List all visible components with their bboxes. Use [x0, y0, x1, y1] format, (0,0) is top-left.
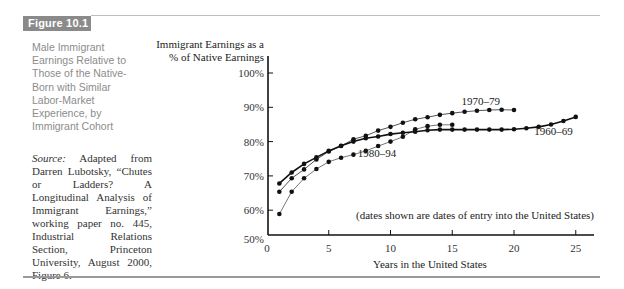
y-tick-label: 60% — [244, 204, 264, 216]
data-point — [401, 130, 406, 135]
data-point — [314, 167, 319, 172]
x-tick-label: 25 — [570, 242, 582, 254]
y-tick-label: 70% — [244, 170, 264, 182]
data-point — [413, 117, 418, 122]
data-point — [438, 127, 443, 132]
data-point — [302, 162, 307, 167]
data-point — [376, 134, 381, 139]
data-point — [302, 176, 307, 181]
data-point — [512, 127, 517, 132]
data-point — [450, 127, 455, 132]
y-axis-title: % of Native Earnings — [169, 51, 264, 63]
data-point — [438, 122, 443, 127]
data-point — [413, 129, 418, 134]
data-point — [326, 149, 331, 154]
data-point — [401, 134, 406, 139]
y-tick-label: 80% — [244, 136, 264, 148]
data-point — [499, 107, 504, 112]
y-tick-label: 50% — [244, 233, 264, 245]
line-chart: 50%60%70%80%90%100%0510152025Immigrant E… — [0, 0, 624, 289]
data-point — [425, 124, 430, 129]
series-label: 1960–69 — [534, 125, 573, 137]
series-label: 1980–94 — [358, 147, 397, 159]
data-point — [351, 152, 356, 157]
series-line — [279, 110, 514, 192]
data-point — [499, 127, 504, 132]
y-tick-label: 90% — [244, 101, 264, 113]
data-point — [302, 167, 307, 172]
y-axis-title: Immigrant Earnings as a — [156, 38, 264, 50]
data-point — [438, 113, 443, 118]
data-point — [351, 139, 356, 144]
data-point — [364, 136, 369, 141]
data-point — [573, 115, 578, 120]
y-tick-label: 100% — [238, 67, 264, 79]
data-point — [339, 155, 344, 160]
data-point — [462, 127, 467, 132]
data-point — [289, 176, 294, 181]
data-point — [425, 115, 430, 120]
x-tick-label: 0 — [264, 242, 270, 254]
data-point — [401, 120, 406, 125]
series-label: 1970–79 — [461, 95, 500, 107]
data-point — [475, 108, 480, 113]
x-axis-title: Years in the United States — [373, 258, 487, 270]
x-tick-label: 15 — [447, 242, 459, 254]
data-point — [450, 122, 455, 127]
data-point — [277, 181, 282, 186]
data-point — [487, 108, 492, 113]
data-point — [289, 170, 294, 175]
data-point — [388, 139, 393, 144]
chart-annotation: (dates shown are dates of entry into the… — [356, 209, 594, 222]
data-point — [326, 160, 331, 165]
x-tick-label: 20 — [509, 242, 521, 254]
data-point — [512, 108, 517, 113]
data-point — [277, 189, 282, 194]
data-point — [462, 109, 467, 114]
data-point — [561, 119, 566, 124]
data-point — [277, 212, 282, 217]
data-point — [314, 155, 319, 160]
data-point — [339, 143, 344, 148]
data-point — [425, 128, 430, 133]
data-point — [289, 189, 294, 194]
x-tick-label: 10 — [385, 242, 397, 254]
data-point — [388, 125, 393, 130]
data-point — [450, 111, 455, 116]
data-point — [487, 127, 492, 132]
data-point — [388, 132, 393, 137]
data-point — [524, 126, 529, 131]
data-point — [475, 127, 480, 132]
data-point — [376, 128, 381, 133]
x-tick-label: 5 — [326, 242, 332, 254]
